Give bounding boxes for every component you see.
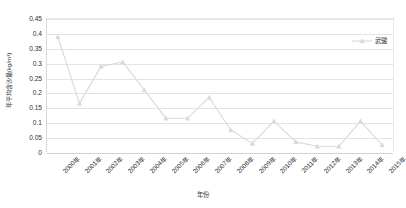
y-tick-label: 0.45 bbox=[29, 15, 42, 22]
y-tick-label: 0 bbox=[38, 149, 42, 156]
x-tick-label: 2000年 bbox=[60, 154, 81, 175]
x-tick-label: 2004年 bbox=[147, 154, 168, 175]
chart-legend: 武骏 bbox=[352, 36, 387, 45]
y-tick-label: 0.4 bbox=[33, 29, 42, 36]
x-tick-label: 2010年 bbox=[278, 154, 299, 175]
data-point-marker bbox=[271, 119, 276, 124]
x-tick-label: 2002年 bbox=[104, 154, 125, 175]
x-tick-label: 2006年 bbox=[191, 154, 212, 175]
y-tick-label: 0.2 bbox=[33, 89, 42, 96]
y-tick-label: 0.35 bbox=[29, 44, 42, 51]
x-tick-label: 2015年 bbox=[387, 154, 406, 175]
data-point-marker bbox=[120, 59, 125, 64]
x-axis-title-text: 年份 bbox=[197, 191, 209, 198]
x-tick-label: 2011年 bbox=[299, 154, 319, 174]
series-line-武骏 bbox=[47, 19, 393, 152]
x-tick-label: 2003年 bbox=[126, 154, 147, 175]
y-tick-label: 0.25 bbox=[29, 74, 42, 81]
legend-triangle-marker-icon bbox=[359, 38, 365, 43]
data-point-marker bbox=[358, 119, 363, 124]
y-tick-label: 0.3 bbox=[33, 59, 42, 66]
x-tick-label: 2007年 bbox=[213, 154, 234, 175]
x-tick-label: 2008年 bbox=[234, 154, 255, 175]
data-point-marker bbox=[55, 34, 60, 39]
legend-swatch-icon bbox=[352, 37, 372, 45]
y-tick-label: 0.1 bbox=[33, 119, 42, 126]
x-tick-label: 2014年 bbox=[365, 154, 386, 175]
x-tick-label: 2012年 bbox=[321, 154, 342, 175]
series-polyline bbox=[58, 37, 382, 147]
plot-area bbox=[46, 18, 394, 152]
y-axis-tick-labels: 00.050.10.150.20.250.30.350.40.45 bbox=[14, 14, 44, 154]
x-axis-tick-labels: 2000年2001年2002年2003年2004年2005年2006年2007年… bbox=[46, 153, 394, 189]
legend-item-label: 武骏 bbox=[375, 36, 387, 45]
x-axis-title: 年份 bbox=[0, 190, 406, 199]
x-tick-label: 2009年 bbox=[256, 154, 277, 175]
x-tick-label: 2013年 bbox=[343, 154, 364, 175]
x-tick-label: 2005年 bbox=[169, 154, 190, 175]
data-point-marker bbox=[207, 95, 212, 100]
x-tick-label: 2001年 bbox=[82, 154, 103, 175]
chart-container: 年平均含沙量(kg/m³) 00.050.10.150.20.250.30.35… bbox=[0, 0, 406, 208]
y-tick-label: 0.05 bbox=[29, 134, 42, 141]
y-axis-title-text: 年平均含沙量(kg/m³) bbox=[5, 52, 14, 108]
data-point-marker bbox=[77, 101, 82, 106]
y-tick-label: 0.15 bbox=[29, 104, 42, 111]
